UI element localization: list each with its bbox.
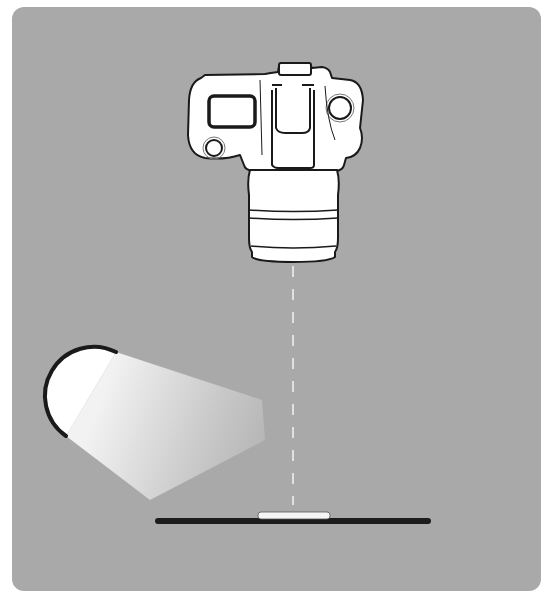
subject-icon xyxy=(258,512,330,519)
camera-icon xyxy=(188,63,363,262)
diagram-canvas xyxy=(0,0,549,600)
